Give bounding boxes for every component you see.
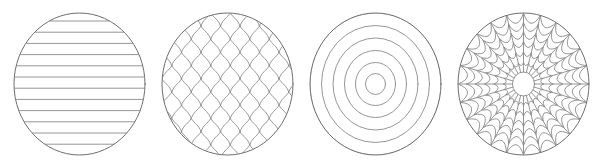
knit-stitch <box>250 66 270 79</box>
web-thread <box>567 119 580 134</box>
web-thread <box>543 112 551 120</box>
knit-stitch <box>289 39 296 52</box>
knit-stitch <box>250 145 270 158</box>
swatch-concentric-rings <box>296 0 444 168</box>
knit-stitch <box>279 158 296 168</box>
web-thread <box>568 100 578 115</box>
pattern-fill-group <box>148 0 296 168</box>
knit-stitch <box>201 105 221 118</box>
knit-stitch <box>289 145 296 158</box>
swatch-outline <box>14 13 145 155</box>
web-thread <box>538 56 544 62</box>
horizontal-stripes-drawing <box>0 0 148 168</box>
web-thread <box>557 84 563 95</box>
knit-stitch <box>289 13 296 26</box>
web-thread <box>538 105 544 111</box>
knit-stitch <box>152 119 172 132</box>
web-thread <box>490 105 498 114</box>
knit-stitch <box>201 53 221 66</box>
web-thread <box>543 100 549 107</box>
knit-stitch <box>260 105 280 118</box>
web-thread <box>511 128 523 136</box>
pattern-fill-group <box>458 13 589 155</box>
web-thread <box>543 61 549 68</box>
knit-stitch <box>269 13 289 26</box>
knit-stitch <box>148 79 162 92</box>
knit-stitch <box>172 145 192 158</box>
knit-stitch <box>269 66 289 79</box>
knit-stitch <box>211 119 231 132</box>
web-thread <box>485 84 491 95</box>
web-thread <box>490 54 498 63</box>
knit-stitch <box>172 13 192 26</box>
knit-stitch <box>289 119 296 132</box>
web-thread <box>496 112 504 120</box>
concentric-rings-drawing <box>296 0 444 168</box>
web-thread <box>513 42 523 48</box>
swatch-spider-web <box>444 0 592 168</box>
knit-stitch <box>152 145 172 158</box>
knit-stitch <box>211 92 231 105</box>
knit-stitch <box>191 66 211 79</box>
swatch-outline <box>310 13 441 155</box>
knit-stitch <box>172 92 192 105</box>
web-thread <box>539 90 543 95</box>
knit-stitch <box>148 26 162 39</box>
web-thread <box>524 128 536 136</box>
web-thread <box>498 61 504 68</box>
knit-stitch <box>162 0 182 13</box>
web-thread <box>513 120 523 126</box>
web-thread <box>506 69 510 74</box>
knit-stitch <box>240 105 260 118</box>
knit-stitch <box>221 26 241 39</box>
pattern-swatch-board <box>0 0 592 168</box>
web-thread <box>537 69 541 74</box>
web-thread <box>509 98 513 102</box>
knit-stitch <box>221 0 241 13</box>
web-thread <box>467 119 480 134</box>
concentric-ring <box>333 38 418 130</box>
web-thread <box>468 53 478 68</box>
knit-stitch <box>211 145 231 158</box>
knit-stitch <box>152 39 172 52</box>
knit-stitch <box>162 132 182 145</box>
knit-stitch <box>240 132 260 145</box>
web-thread <box>467 34 480 49</box>
web-thread <box>514 63 519 67</box>
pattern-fill-group <box>13 21 146 144</box>
knit-stitch <box>182 79 202 92</box>
knit-stitch <box>221 53 241 66</box>
knit-stitch <box>279 132 296 145</box>
web-thread <box>557 73 563 84</box>
concentric-ring <box>345 51 407 118</box>
knit-stitch <box>191 92 211 105</box>
knit-stitch <box>201 0 221 13</box>
knit-stitch <box>148 158 162 168</box>
knit-stitch <box>250 119 270 132</box>
knit-stitch <box>152 13 172 26</box>
knit-stitch <box>182 158 202 168</box>
web-thread <box>533 65 537 69</box>
knit-stitch <box>162 158 182 168</box>
knit-stitch <box>240 79 260 92</box>
web-thread <box>477 23 491 37</box>
web-thread <box>509 65 513 69</box>
knit-stitch <box>221 79 241 92</box>
knit-stitch <box>260 158 280 168</box>
knit-stitch <box>260 0 280 13</box>
web-hub <box>513 72 535 96</box>
knit-stitch <box>211 66 231 79</box>
knit-stitch <box>148 53 162 66</box>
concentric-ring <box>366 74 386 95</box>
knit-stitch <box>240 158 260 168</box>
knit-stitch <box>221 105 241 118</box>
swatch-horizontal-stripes <box>0 0 148 168</box>
web-thread <box>550 54 558 63</box>
web-thread <box>529 63 534 67</box>
web-thread <box>556 23 570 37</box>
web-thread <box>564 71 571 84</box>
web-thread <box>529 101 534 105</box>
web-thread <box>485 73 491 84</box>
knit-stitch <box>172 66 192 79</box>
knit-stitch <box>279 0 296 13</box>
